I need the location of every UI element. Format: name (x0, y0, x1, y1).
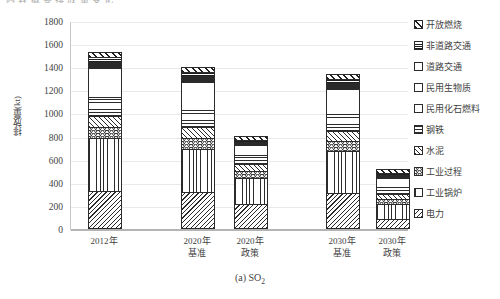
legend-swatch-icon (414, 146, 423, 155)
legend-item[interactable]: 非道路交通 (414, 35, 500, 56)
legend-label: 开放燃烧 (426, 18, 462, 31)
y-axis-tick-label: 1000 (23, 109, 63, 119)
stacked-bar[interactable] (376, 169, 410, 229)
bar-segment[interactable] (181, 138, 215, 148)
x-axis-tick-line: 2020年 (215, 236, 285, 248)
y-axis-tick-label: 1400 (23, 63, 63, 73)
bar-segment[interactable] (181, 149, 215, 192)
legend-swatch-icon (414, 62, 423, 71)
legend-swatch-icon (414, 209, 423, 218)
legend-item[interactable]: 电力 (414, 203, 500, 224)
stacked-bar[interactable] (234, 136, 268, 229)
bar-segment[interactable] (181, 110, 215, 127)
bar-segment[interactable] (326, 89, 360, 114)
bar-segment[interactable] (376, 178, 410, 187)
bar-segment[interactable] (234, 145, 268, 155)
legend-swatch-icon (414, 83, 423, 92)
bar-segment[interactable] (326, 193, 360, 229)
x-axis-tick-line: 政策 (215, 248, 285, 260)
bar-segment[interactable] (234, 171, 268, 178)
bar-segment[interactable] (234, 164, 268, 172)
gridline (71, 230, 408, 231)
y-axis-tick-label: 600 (23, 156, 63, 166)
figure-so2-emissions: 内 容 概 要 排 放 量 变 化 排放量(kt) 02004006008001… (0, 0, 500, 299)
legend-item[interactable]: 民用化石燃料 (414, 98, 500, 119)
x-axis-tick-label: 2012年 (69, 236, 139, 248)
legend-swatch-icon (414, 167, 423, 176)
caption-text: (a) SO (235, 272, 261, 283)
y-axis-tick-label: 1200 (23, 86, 63, 96)
legend-swatch-icon (414, 41, 423, 50)
legend-item[interactable]: 水泥 (414, 140, 500, 161)
caption-subscript: 2 (261, 277, 265, 286)
y-axis-tick-label: 0 (23, 225, 63, 235)
x-axis-tick-label: 2020年政策 (215, 236, 285, 259)
bar-segment[interactable] (88, 68, 122, 96)
y-axis-tick-label: 800 (23, 133, 63, 143)
legend-swatch-icon (414, 188, 423, 197)
bar-segment[interactable] (181, 127, 215, 138)
legend-label: 非道路交通 (426, 39, 471, 52)
legend-item[interactable]: 道路交通 (414, 56, 500, 77)
stacked-bar[interactable] (181, 67, 215, 229)
bar-segment[interactable] (376, 204, 410, 220)
legend-label: 钢铁 (426, 123, 444, 136)
bar-segment[interactable] (181, 82, 215, 110)
y-axis-label: 排放量(kt) (10, 96, 24, 136)
legend-swatch-icon (414, 125, 423, 134)
bar-segment[interactable] (234, 178, 268, 204)
stacked-bar[interactable] (326, 74, 360, 229)
gridline (71, 22, 408, 23)
x-axis-tick-line: 2012年 (69, 236, 139, 248)
legend-swatch-icon (414, 104, 423, 113)
legend-item[interactable]: 钢铁 (414, 119, 500, 140)
bar-segment[interactable] (326, 151, 360, 193)
bar-segment[interactable] (376, 187, 410, 194)
bar-segment[interactable] (234, 155, 268, 164)
y-axis-tick-label: 400 (23, 179, 63, 189)
bar-segment[interactable] (88, 62, 122, 69)
bar-segment[interactable] (88, 116, 122, 128)
legend-label: 民用生物质 (426, 81, 471, 94)
bar-segment[interactable] (88, 138, 122, 191)
stacked-bar[interactable] (88, 52, 122, 229)
plot-area (70, 22, 408, 230)
figure-caption: (a) SO2 (0, 272, 500, 286)
y-axis-tick-label: 200 (23, 202, 63, 212)
x-axis-tick-line: 2030年 (357, 236, 427, 248)
legend-item[interactable]: 工业锅炉 (414, 182, 500, 203)
x-axis-tick-line: 政策 (357, 248, 427, 260)
legend-label: 工业过程 (426, 165, 462, 178)
legend-label: 电力 (426, 207, 444, 220)
bar-segment[interactable] (326, 114, 360, 131)
bar-segment[interactable] (88, 191, 122, 229)
legend-item[interactable]: 工业过程 (414, 161, 500, 182)
legend: 开放燃烧非道路交通道路交通民用生物质民用化石燃料钢铁水泥工业过程工业锅炉电力 (414, 14, 500, 224)
legend-label: 民用化石燃料 (426, 102, 480, 115)
bar-segment[interactable] (234, 204, 268, 229)
legend-swatch-icon (414, 20, 423, 29)
y-axis-tick-label: 1800 (23, 17, 63, 27)
bar-segment[interactable] (181, 192, 215, 229)
legend-item[interactable]: 开放燃烧 (414, 14, 500, 35)
x-axis-tick-label: 2030年政策 (357, 236, 427, 259)
legend-label: 道路交通 (426, 60, 462, 73)
bar-segment[interactable] (88, 97, 122, 116)
bar-segment[interactable] (376, 219, 410, 229)
legend-label: 工业锅炉 (426, 186, 462, 199)
y-axis-tick-label: 1600 (23, 40, 63, 50)
bar-segment[interactable] (326, 131, 360, 141)
legend-label: 水泥 (426, 144, 444, 157)
figure-top-title: 内 容 概 要 排 放 量 变 化 (6, 0, 114, 3)
legend-item[interactable]: 民用生物质 (414, 77, 500, 98)
gridline (71, 45, 408, 46)
bar-segment[interactable] (88, 127, 122, 138)
bar-segment[interactable] (326, 141, 360, 151)
